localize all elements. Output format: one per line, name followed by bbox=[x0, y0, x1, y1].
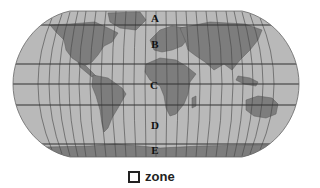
zone-label-c: C bbox=[150, 80, 158, 91]
madagascar bbox=[192, 96, 196, 108]
zone-label-d: D bbox=[151, 120, 159, 131]
zone-label-e: E bbox=[151, 145, 158, 156]
legend-label: zone bbox=[145, 170, 175, 183]
zone-label-b: B bbox=[151, 39, 158, 50]
hollow-square-icon bbox=[128, 171, 140, 183]
legend: zone bbox=[128, 170, 175, 183]
zone-label-a: A bbox=[151, 13, 159, 24]
